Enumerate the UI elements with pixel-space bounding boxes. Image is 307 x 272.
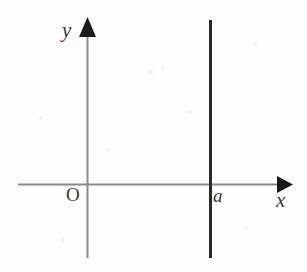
axes-and-line-drawing [0,0,307,272]
y-axis-label: y [62,20,71,41]
x-axis-label: x [276,190,285,211]
y-axis-arrowhead [79,17,96,37]
x-intercept-label-a: a [213,186,223,205]
coordinate-diagram: y x O a [0,0,307,272]
origin-label: O [66,185,80,204]
